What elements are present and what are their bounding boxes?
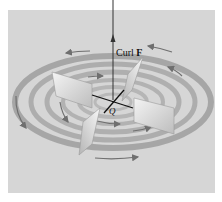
curl-paddle-wheel-diagram: Curl F Q xyxy=(0,0,222,202)
point-q-label: Q xyxy=(109,106,116,116)
curl-f-label: Curl F xyxy=(116,47,142,58)
curl-axis-arrowhead xyxy=(111,34,116,42)
